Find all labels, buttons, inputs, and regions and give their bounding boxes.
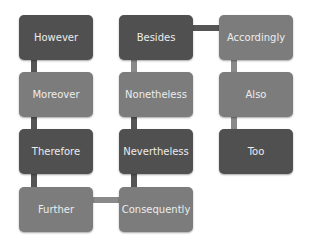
node-nonetheless: Nonetheless	[119, 72, 193, 117]
node-too: Too	[219, 129, 293, 174]
node-further: Further	[19, 187, 93, 232]
node-therefore: Therefore	[19, 129, 93, 174]
node-consequently: Consequently	[119, 187, 193, 232]
node-however: However	[19, 15, 93, 60]
node-besides: Besides	[119, 15, 193, 60]
connector-therefore-further	[31, 172, 37, 188]
connector-further-consequently	[92, 197, 122, 203]
node-moreover: Moreover	[19, 72, 93, 117]
connector-moreover-therefore	[31, 116, 37, 130]
connector-besides-accordingly	[192, 25, 222, 31]
node-nevertheless: Nevertheless	[119, 129, 193, 174]
connector-consequently-nevertheless	[131, 172, 137, 188]
connector-also-too	[231, 116, 237, 130]
connector-nevertheless-nonetheless	[131, 116, 137, 130]
node-accordingly: Accordingly	[219, 15, 293, 60]
node-also: Also	[219, 72, 293, 117]
